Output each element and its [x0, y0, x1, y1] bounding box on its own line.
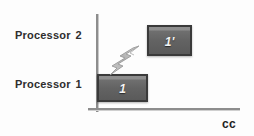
row-label-text: Processor — [15, 29, 71, 41]
lightning-bolt-icon — [108, 45, 142, 77]
task-box-1-prime: 1' — [147, 25, 192, 56]
timing-diagram: Processor2 Processor1 1' 1 cc — [0, 0, 254, 136]
horizontal-axis — [88, 108, 240, 110]
task-box-label: 1' — [165, 36, 175, 48]
x-axis-caption: cc — [222, 117, 236, 131]
row-label-text: Processor — [15, 78, 71, 90]
row-label-index: 1 — [76, 78, 82, 90]
task-box-label: 1 — [119, 83, 126, 95]
row-label-index: 2 — [76, 29, 82, 41]
task-box-1: 1 — [97, 74, 148, 102]
row-label-processor-2: Processor2 — [15, 29, 82, 41]
row-label-processor-1: Processor1 — [15, 78, 82, 90]
